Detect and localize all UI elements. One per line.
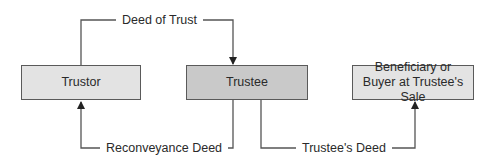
node-beneficiary: Beneficiary or Buyer at Trustee's Sale <box>352 65 474 100</box>
edge-label-trustees-deed: Trustee's Deed <box>296 141 392 155</box>
arrowhead-up-icon <box>77 101 85 109</box>
edge-label-reconveyance-deed: Reconveyance Deed <box>100 141 228 155</box>
node-label: Trustor <box>61 75 100 90</box>
node-trustee: Trustee <box>186 65 308 100</box>
node-label-line-2: Buyer at Trustee's Sale <box>353 75 473 105</box>
node-label: Trustee <box>226 75 268 90</box>
node-label-line-1: Beneficiary or <box>375 60 451 75</box>
edge-label-deed-of-trust: Deed of Trust <box>116 13 203 27</box>
node-trustor: Trustor <box>21 65 141 100</box>
arrowhead-down-icon <box>229 57 237 65</box>
